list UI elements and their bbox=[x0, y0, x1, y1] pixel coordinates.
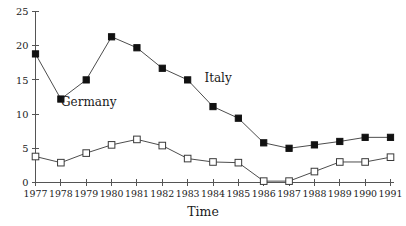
data-point-italy-1987 bbox=[286, 178, 293, 185]
data-point-italy-1990 bbox=[362, 159, 369, 166]
data-point-italy-1977 bbox=[32, 153, 39, 160]
x-tick-label: 1990 bbox=[353, 188, 377, 199]
x-tick-label: 1982 bbox=[150, 188, 174, 199]
y-tick-label: 20 bbox=[16, 40, 28, 51]
data-point-germany-1983 bbox=[185, 77, 191, 83]
data-point-germany-1981 bbox=[134, 45, 140, 51]
line-chart-plot: 0510152025 19771978197919801981198219831… bbox=[0, 0, 406, 226]
data-point-germany-1979 bbox=[83, 77, 89, 83]
y-tick-label: 5 bbox=[22, 143, 28, 154]
data-point-italy-1991 bbox=[387, 154, 394, 161]
data-point-germany-1989 bbox=[337, 138, 343, 144]
series-label-italy: Italy bbox=[204, 71, 232, 85]
x-tick-label: 1977 bbox=[24, 188, 48, 199]
y-tick-label: 25 bbox=[16, 6, 28, 17]
x-tick-label: 1988 bbox=[302, 188, 326, 199]
data-point-germany-1987 bbox=[286, 145, 292, 151]
y-tick-label: 0 bbox=[22, 177, 28, 188]
x-tick-label: 1987 bbox=[277, 188, 301, 199]
data-point-germany-1982 bbox=[159, 65, 165, 71]
x-axis: 1977197819791980198119821983198419851986… bbox=[24, 179, 403, 199]
data-point-italy-1986 bbox=[260, 178, 267, 185]
data-point-germany-1984 bbox=[210, 103, 216, 109]
data-point-germany-1980 bbox=[108, 34, 114, 40]
y-tick-label: 15 bbox=[16, 75, 28, 86]
x-tick-label: 1991 bbox=[379, 188, 403, 199]
y-axis: 0510152025 bbox=[16, 6, 39, 188]
data-point-germany-1991 bbox=[387, 134, 393, 140]
x-tick-label: 1984 bbox=[201, 188, 225, 199]
data-point-italy-1984 bbox=[210, 159, 217, 166]
x-tick-label: 1981 bbox=[125, 188, 149, 199]
data-point-italy-1988 bbox=[311, 168, 318, 175]
x-tick-label: 1979 bbox=[74, 188, 98, 199]
data-point-italy-1979 bbox=[83, 150, 90, 157]
data-point-italy-1981 bbox=[134, 136, 141, 143]
x-tick-label: 1983 bbox=[176, 188, 200, 199]
data-point-germany-1988 bbox=[311, 142, 317, 148]
data-point-italy-1983 bbox=[184, 155, 191, 162]
x-tick-label: 1985 bbox=[226, 188, 250, 199]
data-point-germany-1977 bbox=[32, 51, 38, 57]
data-point-germany-1986 bbox=[261, 140, 267, 146]
data-point-germany-1990 bbox=[362, 134, 368, 140]
data-point-italy-1980 bbox=[108, 142, 115, 149]
x-axis-title: Time bbox=[187, 204, 219, 219]
series-line-germany bbox=[36, 37, 391, 148]
x-tick-label: 1978 bbox=[49, 188, 73, 199]
data-point-italy-1985 bbox=[235, 159, 242, 166]
data-point-italy-1982 bbox=[159, 142, 166, 149]
series-label-germany: Germany bbox=[61, 95, 117, 109]
data-point-italy-1978 bbox=[58, 159, 65, 166]
data-series-group bbox=[32, 34, 394, 185]
y-tick-label: 10 bbox=[16, 109, 28, 120]
x-tick-label: 1986 bbox=[252, 188, 276, 199]
data-point-germany-1985 bbox=[235, 115, 241, 121]
chart-container: 0510152025 19771978197919801981198219831… bbox=[0, 0, 406, 226]
x-tick-label: 1980 bbox=[100, 188, 124, 199]
x-tick-label: 1989 bbox=[328, 188, 352, 199]
data-point-italy-1989 bbox=[336, 159, 343, 166]
